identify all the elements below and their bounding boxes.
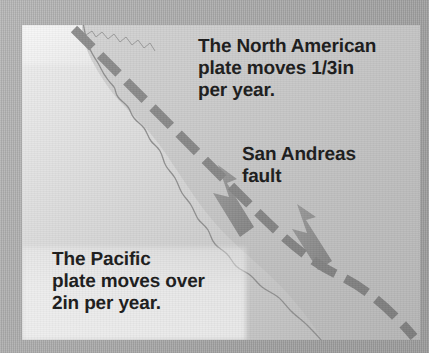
label-north-american-plate: The North American plate moves 1/3in per… <box>198 36 376 102</box>
map-figure: The North American plate moves 1/3in per… <box>22 25 420 340</box>
figure-stage: The North American plate moves 1/3in per… <box>0 0 429 353</box>
label-san-andreas-fault: San Andreas fault <box>242 144 356 188</box>
label-pacific-plate: The Pacific plate moves over 2in per yea… <box>52 249 205 315</box>
